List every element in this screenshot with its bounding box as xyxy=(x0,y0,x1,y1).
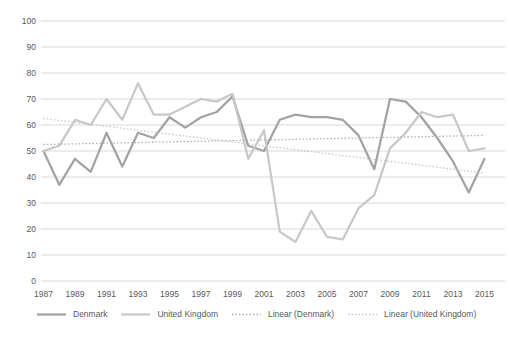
svg-text:2005: 2005 xyxy=(318,289,337,299)
svg-text:20: 20 xyxy=(27,224,37,234)
svg-text:1995: 1995 xyxy=(160,289,179,299)
legend-item-denmark: Denmark xyxy=(36,309,107,319)
y-tick-labels: 0102030405060708090100 xyxy=(22,16,36,286)
legend-item-united-kingdom: United Kingdom xyxy=(120,309,217,319)
svg-text:30: 30 xyxy=(27,198,37,208)
linear-united-kingdom-dotted-swatch xyxy=(347,312,378,317)
svg-text:80: 80 xyxy=(27,68,37,78)
svg-text:2015: 2015 xyxy=(475,289,494,299)
svg-text:1997: 1997 xyxy=(192,289,211,299)
chart-legend: Denmark United Kingdom Linear (Denmark) … xyxy=(36,309,509,319)
legend-label-linear-united-kingdom: Linear (United Kingdom) xyxy=(384,309,476,319)
svg-text:40: 40 xyxy=(27,172,37,182)
trendline-linear-united-kingdom- xyxy=(44,119,485,174)
svg-text:100: 100 xyxy=(22,16,36,26)
svg-text:90: 90 xyxy=(27,42,37,52)
legend-item-linear-denmark: Linear (Denmark) xyxy=(231,309,334,319)
linear-denmark-dotted-swatch xyxy=(231,312,262,317)
chart-plot-area: 0102030405060708090100198719891991199319… xyxy=(0,0,509,305)
svg-text:1993: 1993 xyxy=(129,289,148,299)
united-kingdom-line-swatch xyxy=(120,312,151,317)
series-united-kingdom xyxy=(44,83,485,242)
svg-text:2007: 2007 xyxy=(349,289,368,299)
svg-text:1999: 1999 xyxy=(223,289,242,299)
svg-text:10: 10 xyxy=(27,250,37,260)
svg-text:50: 50 xyxy=(27,146,37,156)
legend-label-denmark: Denmark xyxy=(73,309,107,319)
legend-label-linear-denmark: Linear (Denmark) xyxy=(268,309,334,319)
svg-text:1987: 1987 xyxy=(34,289,53,299)
y-gridlines xyxy=(41,21,505,281)
svg-text:1991: 1991 xyxy=(97,289,116,299)
svg-text:0: 0 xyxy=(31,276,36,286)
legend-item-linear-united-kingdom: Linear (United Kingdom) xyxy=(347,309,476,319)
svg-text:70: 70 xyxy=(27,94,37,104)
line-chart: 0102030405060708090100198719891991199319… xyxy=(0,0,509,339)
svg-text:2003: 2003 xyxy=(286,289,305,299)
x-tick-labels: 1987198919911993199519971999200120032005… xyxy=(34,289,494,299)
svg-text:2001: 2001 xyxy=(255,289,274,299)
legend-label-united-kingdom: United Kingdom xyxy=(157,309,217,319)
series-denmark xyxy=(44,96,485,192)
svg-text:60: 60 xyxy=(27,120,37,130)
svg-text:1989: 1989 xyxy=(66,289,85,299)
svg-text:2013: 2013 xyxy=(444,289,463,299)
svg-text:2009: 2009 xyxy=(381,289,400,299)
svg-text:2011: 2011 xyxy=(412,289,431,299)
denmark-line-swatch xyxy=(36,312,67,317)
